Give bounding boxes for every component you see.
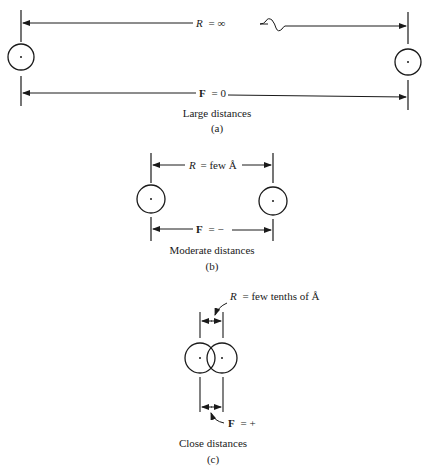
left-atom-nucleus xyxy=(199,357,201,359)
left-atom-nucleus xyxy=(150,198,152,200)
caption-b: Moderate distances xyxy=(169,244,254,256)
f-label-a: F = 0 xyxy=(199,87,226,99)
interatomic-force-diagram: R = ∞ F = 0 Large distances (a) R = few … xyxy=(0,0,430,467)
caption-c: Close distances xyxy=(179,437,247,449)
r-leader-arrow xyxy=(215,303,227,315)
right-atom-nucleus xyxy=(272,200,274,202)
tag-b: (b) xyxy=(206,260,219,273)
r-label-c: R = few tenths of Å xyxy=(229,290,320,302)
r-label-b: R = few Å xyxy=(188,159,237,171)
f-arrow-right xyxy=(228,95,406,97)
left-atom-nucleus xyxy=(20,56,22,58)
right-atom-nucleus xyxy=(221,357,223,359)
r-arrow-right-with-break xyxy=(260,19,406,31)
panel-a-large-distances: R = ∞ F = 0 Large distances (a) xyxy=(8,10,421,135)
right-atom-nucleus xyxy=(407,61,409,63)
tag-a: (a) xyxy=(211,122,224,135)
f-label-c: F = + xyxy=(228,417,256,429)
f-leader-arrow xyxy=(211,413,224,423)
panel-b-moderate-distances: R = few Å F = − Moderate distances (b) xyxy=(137,153,287,273)
panel-c-close-distances: R = few tenths of Å F = + Close distance… xyxy=(179,290,320,466)
tag-c: (c) xyxy=(207,453,220,466)
r-label-a: R = ∞ xyxy=(195,17,225,29)
caption-a: Large distances xyxy=(183,107,252,119)
f-label-b: F = − xyxy=(196,223,224,235)
